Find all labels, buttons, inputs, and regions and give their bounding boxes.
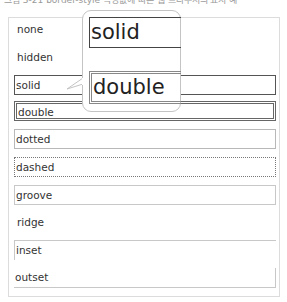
callout-tail-icon	[67, 78, 85, 90]
row-inset: inset	[14, 240, 276, 260]
zoomed-solid-sample: solid	[89, 17, 181, 48]
zoom-callout-bubble: solid double	[82, 10, 181, 112]
row-dotted: dotted	[14, 129, 276, 149]
row-ridge: ridge	[14, 213, 276, 233]
zoomed-double-sample: double	[89, 71, 181, 104]
row-groove: groove	[14, 185, 276, 205]
figure-caption: 그림 3-21 border-style 속성값에 따른 웹 브라우저의 표시 …	[4, 0, 287, 6]
row-outset: outset	[14, 268, 276, 288]
row-dashed: dashed	[14, 157, 276, 177]
